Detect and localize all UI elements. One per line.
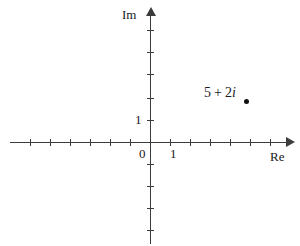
real-axis-tick bbox=[270, 139, 271, 146]
imaginary-axis-tick bbox=[147, 120, 154, 121]
complex-number-annotation: 5+2i bbox=[204, 86, 236, 100]
imaginary-axis-arrow-icon bbox=[146, 7, 156, 16]
real-axis-tick bbox=[50, 139, 51, 146]
real-axis-tick bbox=[90, 139, 91, 146]
imaginary-unit-tick-label: 1 bbox=[135, 113, 142, 126]
origin-tick-label: 0 bbox=[139, 147, 146, 160]
real-axis-tick bbox=[210, 139, 211, 146]
real-axis-arrow-icon bbox=[286, 137, 295, 147]
imaginary-axis-tick bbox=[147, 164, 154, 165]
imaginary-axis-tick bbox=[147, 52, 154, 53]
real-axis-tick bbox=[130, 139, 131, 146]
real-axis-tick bbox=[190, 139, 191, 146]
real-unit-tick-label: 1 bbox=[170, 147, 177, 160]
real-axis-tick bbox=[30, 139, 31, 146]
imaginary-axis-tick bbox=[147, 230, 154, 231]
annotation-imaginary-part: 2 bbox=[225, 85, 232, 100]
imaginary-axis-line bbox=[150, 14, 151, 244]
imaginary-axis-tick bbox=[147, 98, 154, 99]
real-axis-tick bbox=[70, 139, 71, 146]
imaginary-axis-tick bbox=[147, 208, 154, 209]
real-axis-label: Re bbox=[270, 150, 284, 163]
imaginary-axis-tick bbox=[147, 74, 154, 75]
annotation-real-part: 5 bbox=[204, 85, 211, 100]
annotation-operator: + bbox=[214, 85, 222, 100]
annotation-imaginary-unit: i bbox=[232, 85, 236, 100]
real-axis-tick bbox=[230, 139, 231, 146]
imaginary-axis-label: Im bbox=[122, 8, 136, 21]
imaginary-axis-tick bbox=[147, 186, 154, 187]
argand-diagram-figure: Im Re 0 1 1 5+2i bbox=[0, 0, 300, 246]
imaginary-axis-tick bbox=[147, 30, 154, 31]
real-axis-tick bbox=[250, 139, 251, 146]
real-axis-tick bbox=[110, 139, 111, 146]
real-axis-tick bbox=[170, 139, 171, 146]
plotted-point bbox=[244, 99, 249, 104]
